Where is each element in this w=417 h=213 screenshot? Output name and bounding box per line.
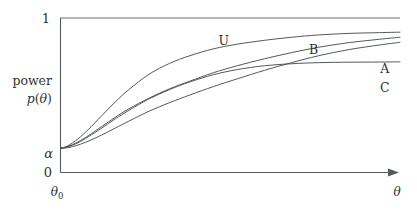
x-origin-subscript: 0 (58, 191, 63, 201)
y-axis-title-p: p (27, 91, 35, 106)
y-axis-title-line1: power (12, 73, 52, 88)
power-function-chart: 1 α 0 power p(θ) θ0 θ U B A C (0, 0, 417, 213)
x-axis-label: θ (393, 185, 401, 199)
curve-label-b: B (309, 42, 318, 57)
curve-b (61, 37, 400, 148)
curve-a (61, 42, 400, 148)
y-axis-zero-label: 0 (44, 165, 52, 180)
curve-label-c: C (380, 80, 390, 95)
y-axis-max-label: 1 (42, 11, 50, 26)
y-axis-alpha-label: α (44, 146, 53, 161)
x-axis-arrow-icon (388, 169, 399, 177)
y-axis-title-paren-close: ) (47, 91, 52, 106)
curve-label-a: A (379, 61, 390, 76)
y-axis-title-line2: p(θ) (27, 91, 52, 106)
chart-svg: 1 α 0 power p(θ) θ0 θ U B A C (0, 0, 417, 213)
curve-label-u: U (218, 33, 229, 48)
x-axis-origin-label: θ0 (51, 185, 64, 201)
